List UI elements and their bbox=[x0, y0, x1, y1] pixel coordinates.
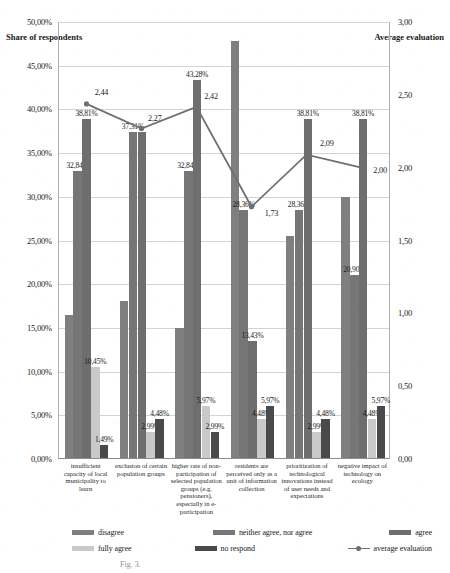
average-evaluation-value-label: 1,73 bbox=[265, 209, 279, 218]
legend-swatch bbox=[389, 530, 411, 535]
category-label: residents are perceived only as a unit o… bbox=[224, 462, 279, 524]
left-axis-tick: 35,00% bbox=[0, 148, 52, 158]
average-evaluation-polyline bbox=[87, 104, 362, 207]
category-label: insufficient capacity of local municipal… bbox=[58, 462, 113, 524]
average-evaluation-value-label: 2,42 bbox=[204, 92, 218, 101]
legend-swatch bbox=[195, 546, 217, 551]
average-evaluation-marker bbox=[304, 152, 309, 157]
legend-label: agree bbox=[415, 528, 432, 537]
legend-item-fully-agree[interactable]: fully agree bbox=[72, 544, 195, 553]
legend-label: disagree bbox=[98, 528, 124, 537]
legend-swatch bbox=[72, 546, 94, 551]
average-evaluation-marker bbox=[359, 165, 364, 170]
left-axis-tick: 5,00% bbox=[0, 410, 52, 420]
left-axis-tick: 10,00% bbox=[0, 367, 52, 377]
legend-label: average evaluation bbox=[374, 544, 432, 553]
category-label: higher rate of non-participation of sele… bbox=[169, 462, 224, 524]
legend-row-top: disagreeneither agree, nor agreeagree bbox=[72, 528, 432, 537]
average-evaluation-marker bbox=[194, 104, 199, 109]
left-axis-tick: 25,00% bbox=[0, 236, 52, 246]
average-evaluation-value-label: 2,27 bbox=[148, 114, 162, 123]
left-axis-tick: 15,00% bbox=[0, 323, 52, 333]
average-evaluation-value-label: 2,00 bbox=[373, 166, 387, 175]
legend-item-no-respond[interactable]: no respond bbox=[195, 544, 348, 553]
category-label: prioritization of technological innovati… bbox=[279, 462, 334, 524]
legend-item-agree[interactable]: agree bbox=[389, 528, 432, 537]
right-axis-tick: 0,50 bbox=[398, 381, 438, 391]
left-axis-tick: 30,00% bbox=[0, 192, 52, 202]
left-axis-tick: 45,00% bbox=[0, 61, 52, 71]
left-axis-tick: 0,00% bbox=[0, 454, 52, 464]
average-evaluation-line bbox=[59, 22, 389, 458]
left-axis-tick: 40,00% bbox=[0, 104, 52, 114]
average-evaluation-marker bbox=[84, 101, 89, 106]
right-axis-tick: 2,00 bbox=[398, 163, 438, 173]
right-axis-tick: 2,50 bbox=[398, 90, 438, 100]
average-evaluation-value-label: 2,44 bbox=[95, 88, 109, 97]
left-axis-tick: 50,00% bbox=[0, 17, 52, 27]
legend-label: fully agree bbox=[98, 544, 131, 553]
right-axis-tick: 0,00 bbox=[398, 454, 438, 464]
average-evaluation-value-label: 2,09 bbox=[320, 139, 334, 148]
chart-container: Share of respondents Average evaluation … bbox=[0, 0, 450, 573]
category-label: exclusion of certain population groups bbox=[113, 462, 168, 524]
left-axis-tick: 20,00% bbox=[0, 279, 52, 289]
right-axis-tick: 3,00 bbox=[398, 17, 438, 27]
category-label: negative impact of technology on ecology bbox=[335, 462, 390, 524]
legend-swatch bbox=[72, 530, 94, 535]
legend-item-average-evaluation[interactable]: average evaluation bbox=[348, 544, 432, 553]
right-axis-tick: 1,50 bbox=[398, 236, 438, 246]
plot-area: 32,84%38,81%10,45%1,49%37,31%2,99%4,48%3… bbox=[58, 22, 390, 459]
legend-row-bottom: fully agreeno respondaverage evaluation bbox=[72, 544, 432, 553]
legend-item-neither-agree-nor-agree[interactable]: neither agree, nor agree bbox=[213, 528, 389, 537]
chart-legend: disagreeneither agree, nor agreeagree fu… bbox=[72, 528, 432, 560]
legend-label: neither agree, nor agree bbox=[239, 528, 312, 537]
average-evaluation-marker bbox=[139, 126, 144, 131]
legend-swatch bbox=[213, 530, 235, 535]
category-axis-labels: insufficient capacity of local municipal… bbox=[58, 462, 390, 524]
right-axis-tick: 1,00 bbox=[398, 308, 438, 318]
legend-label: no respond bbox=[221, 544, 255, 553]
average-evaluation-marker bbox=[249, 204, 254, 209]
legend-item-disagree[interactable]: disagree bbox=[72, 528, 213, 537]
figure-caption: Fig. 3. bbox=[120, 560, 141, 569]
legend-line-marker-icon bbox=[348, 546, 370, 551]
